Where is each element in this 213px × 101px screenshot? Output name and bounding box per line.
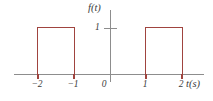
signal-plot-figure: f(t) t(s) 1 −2 −1 0 1 2 [0,0,213,101]
x-tick-label-0: 0 [99,80,109,90]
y-tick-label-1: 1 [95,23,100,33]
y-axis-label: f(t) [88,3,101,14]
y-axis-tick-1 [104,28,117,29]
y-axis-line [110,10,111,82]
x-tick-label-minus1: −1 [65,80,81,90]
x-axis-label: t(s) [186,79,200,90]
pulse-rect-1 [37,27,75,75]
pulse-rect-2 [145,27,183,75]
x-tick-label-1: 1 [139,80,151,90]
x-tick-label-minus2: −2 [29,80,45,90]
x-tick-label-2: 2 [175,80,187,90]
